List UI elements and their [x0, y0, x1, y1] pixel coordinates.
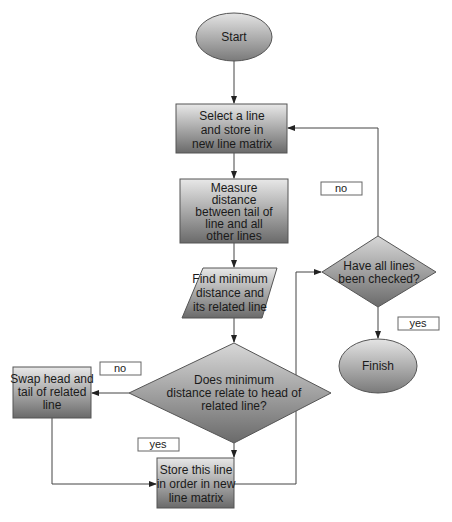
svg-text:line matrix: line matrix — [169, 491, 224, 505]
svg-text:distance relate to head of: distance relate to head of — [167, 386, 302, 400]
swap-head-tail-node: Swap head and tail of related line — [10, 367, 93, 418]
svg-text:no: no — [335, 182, 347, 194]
finish-node: Finish — [339, 339, 417, 393]
svg-text:and store in: and store in — [201, 123, 264, 137]
select-line-node: Select a line and store in new line matr… — [176, 104, 287, 153]
svg-text:tail of related: tail of related — [18, 385, 87, 399]
edge-label-all-yes: yes — [398, 317, 439, 330]
svg-text:Store this line: Store this line — [160, 463, 233, 477]
svg-text:Have all lines: Have all lines — [343, 259, 414, 273]
svg-text:other lines: other lines — [206, 229, 261, 243]
svg-text:yes: yes — [409, 317, 427, 329]
edge-label-all-no: no — [321, 182, 362, 195]
start-node: Start — [196, 13, 272, 61]
store-line-node: Store this line in order in new line mat… — [157, 458, 236, 508]
edge-label-head-no: no — [100, 362, 141, 375]
svg-text:Find minimum: Find minimum — [192, 272, 267, 286]
svg-text:Start: Start — [221, 30, 247, 44]
svg-text:distance and: distance and — [196, 286, 264, 300]
svg-text:its related line: its related line — [193, 300, 267, 314]
measure-distance-node: Measure distance between tail of line an… — [180, 179, 288, 243]
svg-text:yes: yes — [149, 438, 167, 450]
find-minimum-node: Find minimum distance and its related li… — [182, 268, 277, 318]
svg-text:in order in new: in order in new — [157, 477, 236, 491]
decision-head-node: Does minimum distance relate to head of … — [129, 343, 331, 443]
svg-text:Select a line: Select a line — [199, 109, 265, 123]
svg-text:line: line — [43, 398, 62, 412]
edge-label-head-yes: yes — [138, 438, 179, 451]
svg-text:new line matrix: new line matrix — [192, 137, 272, 151]
svg-text:no: no — [114, 362, 126, 374]
svg-text:Swap head and: Swap head and — [10, 372, 93, 386]
flowchart-canvas: Start Select a line and store in new lin… — [0, 0, 452, 522]
decision-all-checked-node: Have all lines been checked? — [322, 236, 436, 307]
svg-text:Finish: Finish — [362, 359, 394, 373]
svg-text:related line?: related line? — [201, 399, 267, 413]
svg-text:been checked?: been checked? — [338, 272, 420, 286]
svg-text:Does minimum: Does minimum — [194, 373, 274, 387]
